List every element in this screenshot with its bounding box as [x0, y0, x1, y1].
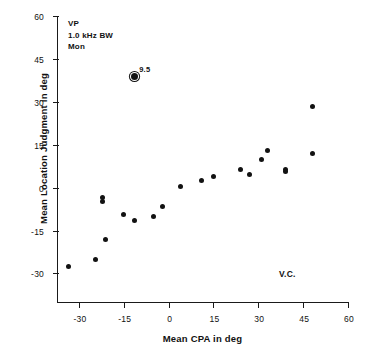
condition-line-3: Mon — [68, 41, 113, 53]
data-point — [160, 204, 165, 209]
x-axis-tick-label: -15 — [118, 314, 131, 324]
x-axis-tick: 15 — [213, 302, 214, 308]
data-point — [199, 178, 204, 183]
x-axis-tick: 30 — [258, 302, 259, 308]
data-point — [211, 174, 216, 179]
y-axis-tick-label: 30 — [34, 98, 44, 108]
data-point — [121, 212, 126, 217]
x-axis-title: Mean CPA in deg — [57, 333, 348, 344]
data-point — [283, 169, 288, 174]
data-point — [93, 257, 98, 262]
data-point — [151, 214, 156, 219]
y-axis-tick-label: 15 — [34, 141, 44, 151]
y-axis-tick-label: 60 — [34, 12, 44, 22]
data-point — [132, 218, 137, 223]
y-axis-tick: 30 — [53, 102, 59, 103]
y-axis-tick: 15 — [53, 145, 59, 146]
y-axis-tick-label: -30 — [31, 269, 44, 279]
condition-line-2: 1.0 kHz BW — [68, 30, 113, 42]
plot-frame: 9.5 -30-15015304560-30-15015304560 — [57, 16, 348, 303]
data-point — [247, 172, 252, 177]
data-point — [310, 104, 315, 109]
x-axis-tick-label: 15 — [210, 314, 220, 324]
data-point — [66, 264, 71, 269]
y-axis-tick-label: -15 — [31, 227, 44, 237]
condition-line-1: VP — [68, 18, 113, 30]
data-point — [131, 73, 138, 80]
x-axis-tick: -15 — [124, 302, 125, 308]
y-axis-tick: 0 — [53, 188, 59, 189]
subject-initials-label: V.C. — [279, 269, 296, 279]
plot-area: 9.5 — [58, 16, 348, 302]
data-point — [103, 237, 108, 242]
x-axis-tick: 60 — [348, 302, 349, 308]
data-point — [310, 151, 315, 156]
x-axis-tick-label: 0 — [167, 314, 172, 324]
data-point-label: 9.5 — [139, 65, 150, 74]
x-axis-tick-label: 30 — [254, 314, 264, 324]
x-axis-tick: -30 — [79, 302, 80, 308]
y-axis-tick-label: 0 — [39, 184, 44, 194]
data-point — [259, 157, 264, 162]
data-point — [178, 184, 183, 189]
y-axis-tick: -30 — [53, 273, 59, 274]
x-axis-tick-label: 45 — [299, 314, 309, 324]
scatter-plot-figure: Mean Location Judgment in deg 9.5 -30-15… — [0, 0, 368, 358]
data-point — [265, 148, 270, 153]
condition-annotation: VP 1.0 kHz BW Mon — [68, 18, 113, 53]
data-point — [238, 167, 243, 172]
y-axis-tick: 45 — [53, 59, 59, 60]
x-axis-tick: 45 — [303, 302, 304, 308]
y-axis-tick: -15 — [53, 231, 59, 232]
x-axis-tick: 0 — [169, 302, 170, 308]
x-axis-tick-label: 60 — [344, 314, 354, 324]
x-axis-tick-label: -30 — [73, 314, 86, 324]
y-axis-tick: 60 — [53, 16, 59, 17]
data-point — [100, 199, 105, 204]
y-axis-tick-label: 45 — [34, 55, 44, 65]
